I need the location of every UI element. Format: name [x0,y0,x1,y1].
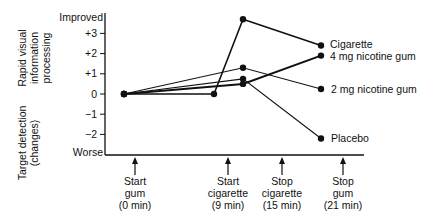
event-label: gum [333,187,354,199]
legend-4mg-gum: 4 mg nicotine gum [330,50,416,62]
ylabel2-line-2: (changes) [28,120,40,167]
ylabel-line-3: processing [40,32,52,83]
ylabel-line-2: information [28,32,40,84]
arrow-head-icon [132,157,138,164]
y-axis-ticks: Improved+3+2+10−1−2Worse [59,11,105,158]
legend-2mg-gum: 2 mg nicotine gum [331,83,417,95]
data-point [240,76,246,82]
data-point [318,42,324,48]
legend-cigarette: Cigarette [330,38,373,50]
data-point [211,91,217,97]
event-label: cigarette [208,187,248,199]
event-label: (0 min) [119,199,152,211]
y-tick-label: −2 [85,128,97,140]
y-tick-label: Worse [73,146,103,158]
event-label: Stop [332,175,354,187]
event-label: (9 min) [212,199,245,211]
chart: Rapid visual information processing Targ… [0,0,429,221]
y-tick-label: +1 [85,67,97,79]
ylabel-line-1: Rapid visual [16,29,28,86]
ylabel2-line-1: Target detection [16,105,28,180]
data-point [121,91,127,97]
series-lines [121,16,324,142]
legend: Cigarette 4 mg nicotine gum 2 mg nicotin… [330,38,417,144]
series-line-1 [124,56,321,94]
y-tick-label: −1 [85,108,97,120]
series-line-0 [124,19,321,94]
x-axis-events: Startgum(0 min)Startcigarette(9 min)Stop… [119,157,363,211]
arrow-head-icon [340,157,346,164]
arrow-head-icon [225,157,231,164]
event-label: (15 min) [263,199,302,211]
data-point [240,16,246,22]
data-point [240,65,246,71]
data-point [318,52,324,58]
y-tick-label: Improved [59,11,103,23]
y-tick-label: +2 [85,47,97,59]
legend-placebo: Placebo [331,132,369,144]
data-point [318,86,324,92]
arrow-head-icon [279,157,285,164]
y-tick-label: 0 [91,88,97,100]
y-tick-label: +3 [85,27,97,39]
event-label: Start [124,175,146,187]
event-label: gum [125,187,146,199]
event-label: Start [217,175,239,187]
event-label: cigarette [262,187,302,199]
data-point [318,135,324,141]
event-label: Stop [271,175,293,187]
y-axis-title: Rapid visual information processing Targ… [16,29,52,180]
event-label: (21 min) [324,199,363,211]
